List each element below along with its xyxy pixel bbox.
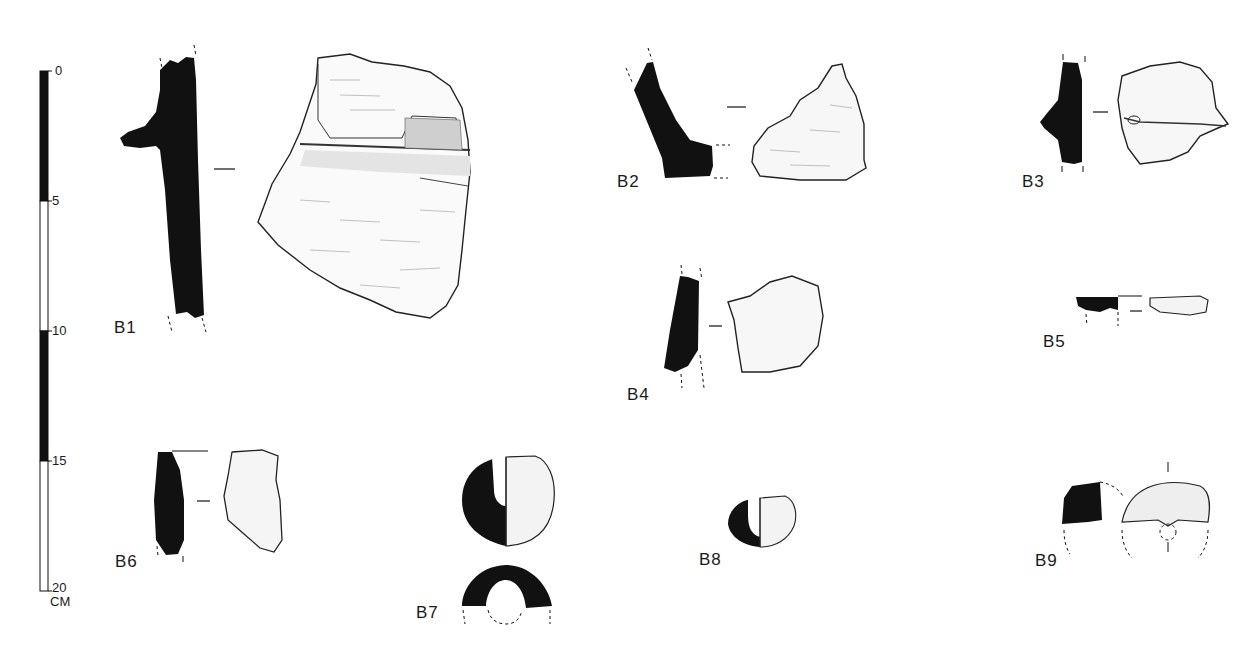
sherd-label-b9: B9 [1035, 551, 1058, 571]
b9-profile [0, 0, 1251, 652]
